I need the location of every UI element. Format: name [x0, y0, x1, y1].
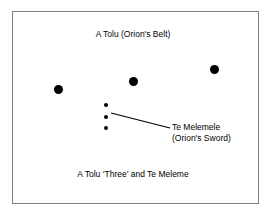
leader-line-segment [111, 113, 170, 128]
figure-caption: A Tolu ‘Three’ and Te Meleme [0, 169, 266, 180]
constellation-figure: A Tolu (Orion's Belt) Te Melemele (Orion… [0, 0, 273, 218]
sword-label: Te Melemele (Orion's Sword) [172, 122, 231, 144]
belt-label: A Tolu (Orion's Belt) [0, 29, 266, 40]
sword-label-line-1: Te Melemele [172, 122, 231, 133]
sword-label-line-2: (Orion's Sword) [172, 133, 231, 144]
